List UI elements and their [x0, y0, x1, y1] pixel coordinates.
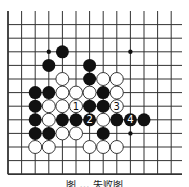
black-stone [138, 113, 151, 126]
black-stone [56, 45, 69, 58]
white-stone [56, 86, 69, 99]
white-stone [56, 100, 69, 113]
black-stone [29, 113, 42, 126]
white-stone [42, 113, 55, 126]
diagram-caption: 图 … 失败图 [0, 180, 189, 187]
white-stone [110, 141, 123, 154]
black-stone [42, 127, 55, 140]
white-stone [70, 86, 83, 99]
star-point-icon [47, 50, 51, 54]
black-stone [56, 113, 69, 126]
move-number-label: 1 [73, 101, 79, 112]
white-stone [97, 113, 110, 126]
white-stone [97, 141, 110, 154]
black-stone [83, 100, 96, 113]
black-stone [29, 100, 42, 113]
white-stone [97, 73, 110, 86]
white-stone [110, 86, 123, 99]
black-stone [83, 59, 96, 72]
black-stone [29, 127, 42, 140]
white-stone [56, 127, 69, 140]
go-board: 1234 [0, 0, 189, 187]
black-stone [42, 59, 55, 72]
black-stone [42, 86, 55, 99]
star-point-icon [128, 50, 132, 54]
move-number-label: 2 [86, 114, 92, 125]
move-number-label: 4 [127, 114, 133, 125]
black-stone [29, 86, 42, 99]
white-stone [42, 141, 55, 154]
white-stone [56, 73, 69, 86]
black-stone [97, 100, 110, 113]
black-stone [97, 86, 110, 99]
black-stone [97, 127, 110, 140]
black-stone [70, 113, 83, 126]
white-stone [29, 141, 42, 154]
white-stone [83, 141, 96, 154]
star-point-icon [128, 131, 132, 135]
black-stone [83, 73, 96, 86]
black-stone [110, 113, 123, 126]
white-stone [83, 86, 96, 99]
move-number-label: 3 [114, 101, 120, 112]
white-stone [42, 100, 55, 113]
white-stone [110, 73, 123, 86]
white-stone [70, 127, 83, 140]
